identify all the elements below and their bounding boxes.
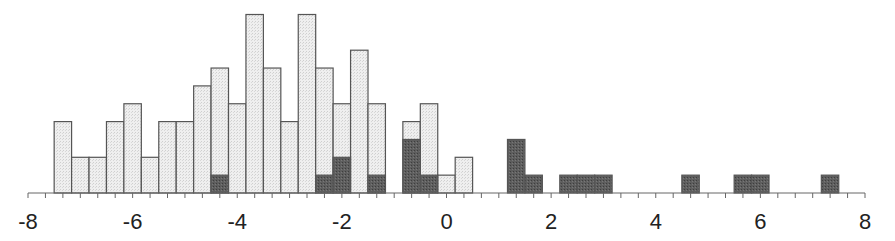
light-bar xyxy=(141,157,158,193)
dark-bar xyxy=(595,175,612,193)
light-bar xyxy=(72,157,89,193)
light-bar xyxy=(351,50,368,193)
dark-bar xyxy=(682,175,699,193)
light-bar xyxy=(281,122,298,193)
light-bar xyxy=(124,104,141,193)
dark-bar xyxy=(560,175,577,193)
light-bar xyxy=(194,86,211,193)
light-bar xyxy=(211,68,228,193)
light-bar xyxy=(455,157,472,193)
dark-bar xyxy=(333,157,350,193)
dark-bar xyxy=(752,175,769,193)
dark-bar xyxy=(507,139,524,193)
dark-bar xyxy=(577,175,594,193)
dark-bar xyxy=(525,175,542,193)
light-bar xyxy=(106,122,123,193)
x-tick-label: 6 xyxy=(754,209,766,234)
histogram-chart: -8-6-4-202468 xyxy=(0,0,895,241)
x-tick-label: 8 xyxy=(859,209,871,234)
light-bar xyxy=(229,104,246,193)
light-bar xyxy=(263,68,280,193)
x-tick-label: 4 xyxy=(650,209,662,234)
x-tick-label: -4 xyxy=(227,209,247,234)
light-bar xyxy=(176,122,193,193)
dark-bar xyxy=(734,175,751,193)
light-bar xyxy=(298,15,315,194)
x-tick-label: -8 xyxy=(18,209,38,234)
x-tick-label: 2 xyxy=(545,209,557,234)
x-axis: -8-6-4-202468 xyxy=(18,193,871,234)
x-tick-label: -6 xyxy=(123,209,143,234)
dark-bar xyxy=(821,175,838,193)
dark-bar xyxy=(316,175,333,193)
dark-bar xyxy=(211,175,228,193)
light-bar xyxy=(89,157,106,193)
light-bar xyxy=(246,15,263,194)
light-bar xyxy=(316,68,333,193)
light-bar xyxy=(54,122,71,193)
light-bar xyxy=(438,175,455,193)
x-tick-label: 0 xyxy=(440,209,452,234)
dark-bar xyxy=(403,139,420,193)
dark-bar xyxy=(420,175,437,193)
dark-bar xyxy=(368,175,385,193)
light-bar xyxy=(159,122,176,193)
x-tick-label: -2 xyxy=(332,209,352,234)
